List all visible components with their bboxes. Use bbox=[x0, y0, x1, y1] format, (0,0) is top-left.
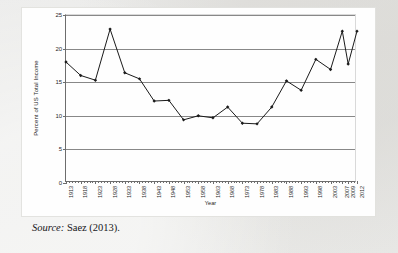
x-tick-label: 2012 bbox=[360, 186, 366, 198]
x-tick-mark-major bbox=[357, 181, 358, 184]
x-tick-label: 1958 bbox=[201, 186, 207, 198]
x-tick-label: 1968 bbox=[230, 186, 236, 198]
data-point-marker bbox=[341, 29, 344, 32]
x-tick-label: 1928 bbox=[113, 186, 119, 198]
x-tick-label: 2009 bbox=[351, 186, 357, 198]
data-point-marker bbox=[346, 62, 349, 65]
y-tick-label: 10 bbox=[56, 113, 62, 119]
chart-figure-panel: Percent of US Total Income 0510152025 19… bbox=[22, 8, 375, 216]
data-point-marker bbox=[108, 27, 111, 30]
x-tick-label: 1983 bbox=[274, 186, 280, 198]
y-tick-label: 0 bbox=[59, 180, 62, 186]
x-tick-label: 1948 bbox=[171, 186, 177, 198]
data-series-line bbox=[66, 15, 357, 183]
y-tick-label: 25 bbox=[56, 12, 62, 18]
x-tick-label: 1988 bbox=[289, 186, 295, 198]
x-tick-label: 1953 bbox=[186, 186, 192, 198]
x-tick-label: 1918 bbox=[83, 186, 89, 198]
y-axis-title-label: Percent of US Total Income bbox=[33, 60, 39, 136]
data-point-marker bbox=[123, 71, 126, 74]
x-tick-label: 1943 bbox=[157, 186, 163, 198]
caption-source-text: Saez (2013). bbox=[64, 222, 120, 233]
figure-source-caption: Source: Saez (2013). bbox=[32, 222, 120, 233]
y-tick-label: 5 bbox=[59, 146, 62, 152]
x-tick-label: 1933 bbox=[127, 186, 133, 198]
x-tick-label: 1923 bbox=[98, 186, 104, 198]
x-tick-label: 1998 bbox=[318, 186, 324, 198]
y-tick-label: 15 bbox=[56, 79, 62, 85]
x-tick-label: 1938 bbox=[142, 186, 148, 198]
x-tick-label: 1963 bbox=[216, 186, 222, 198]
x-tick-label: 1973 bbox=[245, 186, 251, 198]
plot-area: 0510152025 19131918192319281933193819431… bbox=[65, 14, 356, 182]
x-tick-label: 1993 bbox=[304, 186, 310, 198]
x-tick-label: 1978 bbox=[260, 186, 266, 198]
data-point-marker bbox=[197, 114, 200, 117]
data-point-marker bbox=[94, 78, 97, 81]
caption-source-prefix: Source: bbox=[32, 222, 64, 233]
x-tick-label: 2003 bbox=[333, 186, 339, 198]
x-axis-title: Year bbox=[65, 200, 356, 206]
x-tick-label: 1913 bbox=[69, 186, 75, 198]
series-polyline bbox=[66, 29, 357, 124]
y-tick-label: 20 bbox=[56, 46, 62, 52]
y-axis-title: Percent of US Total Income bbox=[30, 14, 42, 182]
data-point-marker bbox=[355, 29, 358, 32]
